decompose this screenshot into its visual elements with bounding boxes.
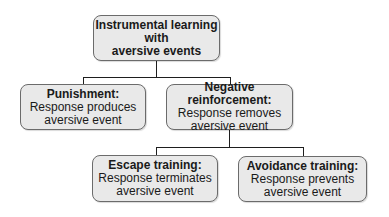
node-negative-reinforcement: Negative reinforcement: Response removes…: [166, 84, 293, 130]
node-title: Punishment:: [47, 88, 120, 101]
node-line: aversive event: [44, 114, 121, 127]
node-title: Avoidance training:: [247, 160, 359, 173]
node-line: Instrumental learning: [95, 19, 217, 32]
connector-to-avoidance: [303, 147, 304, 156]
connector-root-down: [156, 61, 157, 77]
node-line: aversive event: [191, 120, 268, 133]
connector-level2-horizontal: [156, 147, 304, 148]
connector-to-escape: [156, 147, 157, 155]
node-punishment: Punishment: Response produces aversive e…: [20, 84, 146, 130]
connector-level1-horizontal: [83, 77, 231, 78]
node-line: aversive event: [264, 186, 341, 199]
connector-to-punishment: [83, 77, 84, 84]
diagram-canvas: Instrumental learning with aversive even…: [0, 0, 389, 217]
node-instrumental-learning: Instrumental learning with aversive even…: [93, 15, 220, 61]
node-escape-training: Escape training: Response terminates ave…: [92, 155, 218, 202]
node-title: Negative reinforcement:: [167, 81, 292, 107]
node-line: Response produces: [30, 101, 137, 114]
node-line: aversive events: [112, 45, 201, 58]
node-line: Response prevents: [251, 173, 354, 186]
node-line: with: [145, 32, 169, 45]
node-line: aversive event: [116, 185, 193, 198]
node-avoidance-training: Avoidance training: Response prevents av…: [238, 156, 367, 202]
